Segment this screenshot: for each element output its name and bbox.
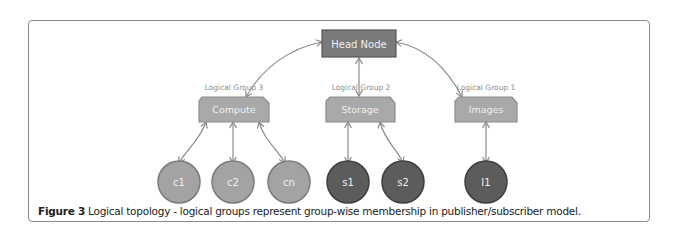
figure-caption: Figure 3 Logical topology - logical grou… [38,205,581,217]
group-node-compute-label: Compute [212,104,255,115]
member-node-s2-label: s2 [397,177,409,188]
connector-compute-c1 [179,122,206,163]
head-node-label: Head Node [331,39,386,50]
group-node-images-label: Images [469,104,504,115]
connector-storage-s2 [380,122,403,163]
connector-compute-cn [259,122,285,163]
member-node-i1: I1 [465,161,507,203]
member-node-c1: c1 [158,161,200,203]
group-node-images: Images [455,97,517,122]
group-node-storage: Storage [326,97,395,122]
connector-head-images [396,42,462,97]
member-node-s2: s2 [382,161,424,203]
member-node-cn: cn [268,161,310,203]
group-node-storage-label: Storage [341,104,378,115]
member-node-cn-label: cn [283,177,295,188]
member-node-s1: s1 [327,161,369,203]
group-label-images: Logical Group 1 [457,83,516,92]
member-node-c1-label: c1 [173,177,185,188]
group-node-compute: Compute [199,97,269,122]
member-node-i1-label: I1 [481,177,490,188]
figure-caption-text: Logical topology - logical groups repres… [85,205,581,217]
group-label-compute: Logical Group 3 [205,83,264,92]
member-node-c2-label: c2 [227,177,239,188]
member-node-c2: c2 [212,161,254,203]
head-node: Head Node [322,30,396,57]
member-node-s1-label: s1 [342,177,354,188]
group-label-storage: Logical Group 2 [332,83,391,92]
figure-caption-label: Figure 3 [38,205,85,217]
